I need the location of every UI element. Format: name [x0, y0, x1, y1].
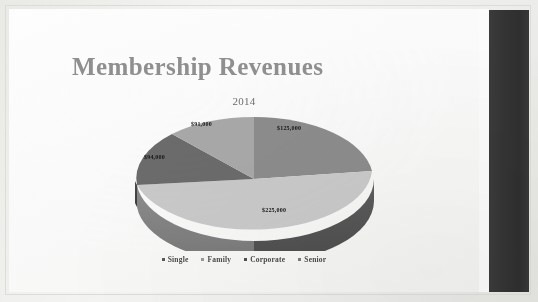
legend-swatch-icon: [298, 258, 301, 261]
legend-label: Single: [168, 255, 189, 264]
legend-item-family[interactable]: Family: [201, 255, 231, 264]
legend-swatch-icon: [244, 258, 247, 261]
legend-swatch-icon: [201, 258, 204, 261]
legend-label: Corporate: [250, 255, 285, 264]
legend-item-corporate[interactable]: Corporate: [244, 255, 285, 264]
legend-item-single[interactable]: Single: [162, 255, 189, 264]
slide-photo: Membership Revenues 2014: [0, 0, 538, 302]
pie-label-family: $225,000: [262, 207, 286, 213]
legend-swatch-icon: [162, 258, 165, 261]
pie-slice-single: [254, 117, 372, 179]
pie-depth-corporate: [135, 181, 137, 207]
chart-subtitle: 2014: [9, 95, 479, 107]
pie-chart: $125,000 $225,000 $94,000 $91,000: [129, 111, 379, 251]
pie-label-single: $125,000: [277, 125, 301, 131]
legend-item-senior[interactable]: Senior: [298, 255, 326, 264]
chart-legend: Single Family Corporate Senior: [9, 255, 479, 264]
legend-label: Family: [207, 255, 231, 264]
slide-right-margin: [479, 9, 489, 292]
page-title: Membership Revenues: [72, 53, 323, 81]
presentation-slide: Membership Revenues 2014: [9, 9, 479, 292]
pie-chart-svg: [129, 111, 379, 251]
pie-label-corporate: $94,000: [144, 154, 165, 160]
slide-right-dark-band: [489, 10, 529, 292]
legend-label: Senior: [304, 255, 326, 264]
pie-label-senior: $91,000: [191, 121, 212, 127]
